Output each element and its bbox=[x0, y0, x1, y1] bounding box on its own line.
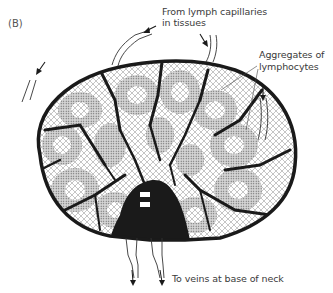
lymph-node-illustration bbox=[0, 0, 333, 293]
afferent-vessel-left bbox=[22, 80, 36, 102]
afferent-vessel-right-upper bbox=[206, 35, 217, 62]
afferent-vessel-top bbox=[112, 30, 152, 66]
